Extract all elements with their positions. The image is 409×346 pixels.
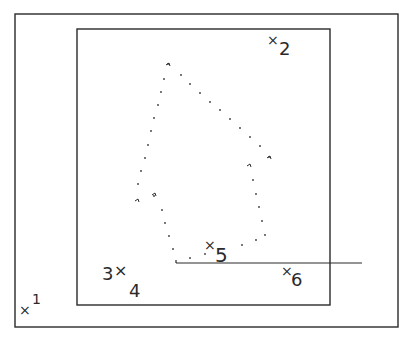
polygon-dot [153, 117, 155, 119]
polygon-dot [168, 235, 170, 237]
polygon-dot [144, 157, 146, 159]
point-marker-5: × [204, 238, 216, 252]
polygon-dot [189, 83, 191, 85]
corner-tick-mark [135, 199, 139, 202]
point-label-2: 2 [279, 40, 290, 58]
point-label-4: 4 [129, 282, 140, 300]
polygon-dot [150, 130, 152, 132]
diagram-canvas [0, 0, 409, 346]
polygon-dot [160, 91, 162, 93]
polygon-dot [259, 145, 261, 147]
polygon-dot [153, 195, 155, 197]
polygon-dot [137, 183, 139, 185]
polygon-dot [161, 209, 163, 211]
point-label-1: 1 [32, 292, 41, 306]
polygon-dot [229, 118, 231, 120]
polygon-dot [241, 244, 243, 246]
polygon-dot [261, 220, 263, 222]
polygon-dot [255, 239, 257, 241]
polygon-dot [157, 104, 159, 106]
point-label-6: 6 [291, 271, 302, 289]
polygon-dot [164, 222, 166, 224]
corner-tick-mark [247, 164, 251, 167]
point-marker-3: × [114, 263, 127, 279]
polygon-dot [249, 136, 251, 138]
polygon-dot [258, 206, 260, 208]
point-marker-1: × [19, 303, 31, 317]
polygon-dot [180, 74, 182, 76]
polygon-dot [172, 248, 174, 250]
point-marker-2: × [267, 33, 279, 47]
polygon-dot [219, 109, 221, 111]
outer-frame [15, 14, 398, 327]
polygon-dot [264, 234, 266, 236]
polygon-dot [252, 179, 254, 181]
polygon-dot [147, 144, 149, 146]
polygon-dot [255, 193, 257, 195]
polygon-dot [239, 127, 241, 129]
polygon-dot [140, 170, 142, 172]
polygon-dot [199, 92, 201, 94]
polygon-dot [189, 257, 191, 259]
point-label-5: 5 [215, 245, 228, 265]
polygon-dot [163, 78, 165, 80]
polygon-dot [204, 253, 206, 255]
point-label-3: 3 [102, 265, 113, 283]
polygon-dot [209, 101, 211, 103]
